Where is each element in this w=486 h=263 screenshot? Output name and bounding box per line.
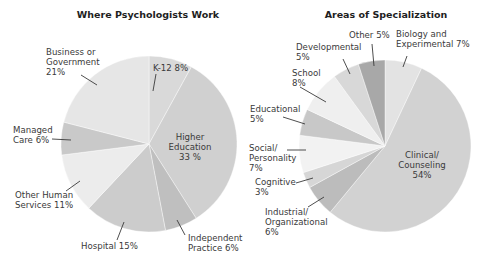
right-chart-title: Areas of Specialization xyxy=(325,9,448,20)
slice-label-managed-care: ManagedCare 6% xyxy=(13,125,53,145)
slice-label-k-12: K-12 8% xyxy=(153,63,188,73)
areas-of-specialization-pie: Biology andExperimental 7%Clinical/Couns… xyxy=(249,29,471,237)
where-psychologists-work-pie: K-12 8%HigherEducation33 %IndependentPra… xyxy=(13,47,243,253)
slice-label-educational: Educational5% xyxy=(250,104,300,124)
leader-line-educational xyxy=(283,117,305,124)
slice-label-cognitive: Cognitive3% xyxy=(255,177,296,197)
slice-label-independent-practice: IndependentPractice 6% xyxy=(188,233,243,253)
slice-label-social-personality: Social/Personality7% xyxy=(249,143,296,173)
left-chart-title: Where Psychologists Work xyxy=(77,9,220,20)
slice-label-biology-and-experimental: Biology andExperimental 7% xyxy=(396,29,470,49)
slice-label-other: Other 5% xyxy=(349,30,390,40)
slice-label-hospital: Hospital 15% xyxy=(81,241,138,251)
slice-label-industrial-organizational: Industrial/Organizational6% xyxy=(265,207,328,237)
slice-label-business-or-government: Business orGovernment21% xyxy=(46,47,100,77)
slice-label-other-human-services: Other HumanServices 11% xyxy=(15,190,73,210)
pie-charts-figure: Where Psychologists Work Areas of Specia… xyxy=(0,0,486,263)
slice-label-school: School8% xyxy=(292,68,321,88)
slice-label-developmental: Developmental5% xyxy=(296,42,362,62)
